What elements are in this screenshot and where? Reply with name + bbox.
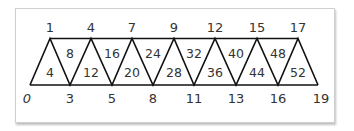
bottom-label: 8	[149, 91, 157, 106]
top-label: 1	[46, 20, 54, 35]
top-label: 7	[128, 20, 136, 35]
triangle-label: 48	[270, 46, 286, 61]
triangle-label: 28	[166, 65, 182, 80]
bottom-label: 13	[228, 91, 245, 106]
top-label: 17	[290, 20, 307, 35]
triangle-label: 40	[228, 46, 244, 61]
triangle-strip-diagram: 1 4 7 9 12 15 17 0 3 5 8 11 13 16 19 4 1…	[0, 0, 354, 131]
bottom-label: 11	[186, 91, 203, 106]
bottom-label: 19	[313, 91, 330, 106]
triangle-label: 36	[207, 65, 223, 80]
triangle-label: 24	[145, 46, 161, 61]
triangle-label: 8	[66, 46, 74, 61]
top-label: 4	[87, 20, 95, 35]
triangle-label: 32	[186, 46, 202, 61]
bottom-label: 5	[108, 91, 116, 106]
bottom-label: 16	[270, 91, 287, 106]
upward-triangle-labels: 4 12 20 28 36 44 52	[46, 65, 306, 80]
top-label: 12	[207, 20, 224, 35]
triangle-label: 52	[290, 65, 306, 80]
bottom-vertex-labels: 0 3 5 8 11 13 16 19	[23, 91, 329, 106]
top-label: 15	[249, 20, 266, 35]
top-vertex-labels: 1 4 7 9 12 15 17	[46, 20, 306, 35]
bottom-label: 0	[23, 91, 31, 106]
triangle-label: 12	[83, 65, 99, 80]
triangle-label: 44	[249, 65, 265, 80]
bottom-label: 3	[66, 91, 74, 106]
triangle-label: 16	[104, 46, 120, 61]
triangle-label: 20	[124, 65, 140, 80]
top-label: 9	[170, 20, 178, 35]
triangle-label: 4	[46, 65, 54, 80]
